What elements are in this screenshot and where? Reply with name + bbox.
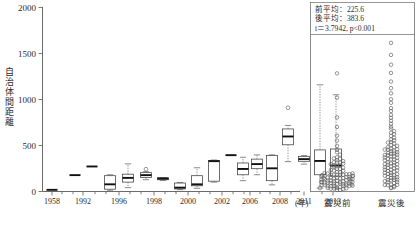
y-tick-label: 1500: [18, 49, 37, 59]
stats-ttest: t＝3.7942, p<0.001: [315, 24, 375, 33]
box-rect: [105, 176, 116, 190]
x-tick-label: 1958: [44, 197, 60, 206]
boxplot-2011-15: [299, 156, 310, 164]
y-axis-title-char-2: 体: [5, 86, 14, 97]
y-axis-title: 自 治 体 間 距 離: [5, 66, 14, 127]
strip-point: [389, 63, 393, 67]
strip-point: [389, 101, 393, 105]
y-tick-label: 2000: [18, 3, 37, 13]
boxplot-2000-7: [175, 182, 186, 189]
x-axis-unit-label: (年): [295, 198, 309, 208]
y-axis-title-char-1: 治: [5, 76, 14, 87]
strip-point: [389, 53, 393, 57]
boxplot-1996-3: [105, 175, 116, 191]
boxplot-2000b-8: [192, 168, 203, 189]
boxplot-2008-13: [267, 155, 278, 185]
strip-point: [389, 98, 393, 102]
strip-point: [386, 161, 390, 165]
y-tick-label: 1000: [18, 95, 37, 105]
boxplot-1998-5: [141, 167, 152, 179]
strip-point: [389, 86, 393, 90]
strip-point: [389, 80, 393, 84]
x-tick-label: 2000: [180, 197, 196, 206]
y-axis-title-char-0: 自: [5, 66, 14, 77]
outlier-point: [144, 167, 148, 171]
x-tick-label: 2008: [272, 197, 288, 206]
boxplot-2008b-14: [283, 106, 294, 162]
x-tick-label: 1992: [75, 197, 91, 206]
strip-point: [389, 71, 393, 75]
box-rect: [315, 150, 326, 175]
boxplot-group: [47, 15, 342, 191]
right-panel-label-before: 震災前: [324, 198, 351, 208]
right-panel: 震災前 震災後: [311, 8, 415, 209]
boxplot-2002-9: [209, 160, 220, 182]
boxplot-figure: 0500100015002000 19581992199619982000200…: [0, 0, 418, 229]
outlier-point: [286, 106, 290, 110]
boxplot-2011b-16: [315, 15, 326, 190]
x-tick-label: 1996: [111, 197, 127, 206]
stats-annotation-box: 前平均：225.6 後平均：383.6 t＝3.7942, p<0.001: [311, 3, 415, 35]
right-panel-label-after: 震災後: [378, 198, 405, 208]
strip-point: [386, 145, 390, 149]
y-axis-title-char-4: 距: [5, 107, 14, 117]
y-tick-group: 0500100015002000: [18, 3, 43, 197]
strip-point: [389, 92, 393, 96]
boxplot-2006b-12: [252, 155, 263, 175]
y-axis-title-char-5: 離: [5, 116, 14, 127]
strip-point: [335, 96, 339, 100]
y-axis-title-char-3: 間: [5, 97, 14, 107]
stats-mean-before: 前平均：225.6: [315, 4, 364, 14]
strip-point: [335, 72, 339, 76]
strip-point: [389, 41, 393, 45]
boxplot-2006-11: [238, 157, 249, 180]
figure-canvas: 0500100015002000 19581992199619982000200…: [0, 0, 418, 229]
x-tick-label: 2006: [242, 197, 258, 206]
y-tick-label: 500: [23, 141, 37, 151]
boxplot-1996b-4: [123, 164, 134, 188]
strip-point: [395, 144, 399, 148]
x-tick-label: 2002: [214, 197, 230, 206]
strip-panel-震災後: [383, 13, 399, 190]
box-rect: [209, 160, 220, 181]
strip-point: [341, 159, 345, 163]
x-tick-label: 1998: [146, 197, 162, 206]
y-tick-label: 0: [32, 187, 37, 197]
stats-mean-after: 後平均：383.6: [315, 13, 364, 23]
boxplot-1998b-6: [158, 178, 169, 181]
